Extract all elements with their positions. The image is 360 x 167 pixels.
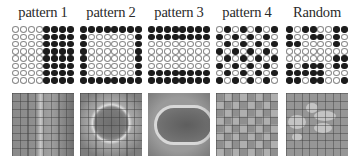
- grid-cell: [340, 77, 348, 84]
- grid-cell: [286, 41, 294, 48]
- empty-dot-icon: [156, 55, 163, 61]
- empty-dot-icon: [247, 55, 254, 61]
- empty-dot-icon: [216, 26, 223, 32]
- grid-cell: [96, 33, 104, 40]
- empty-dot-icon: [286, 48, 293, 54]
- empty-dot-icon: [20, 63, 27, 69]
- filled-dot-icon: [216, 63, 223, 69]
- filled-dot-icon: [43, 77, 50, 83]
- grid-cell: [156, 62, 164, 69]
- grid-cell: [171, 48, 179, 55]
- filled-dot-icon: [135, 34, 142, 40]
- grid-cell: [12, 55, 20, 62]
- filled-dot-icon: [43, 26, 50, 32]
- filled-dot-icon: [263, 77, 270, 83]
- response-map: [148, 93, 210, 156]
- grid-cell: [216, 33, 224, 40]
- grid-cell: [255, 41, 263, 48]
- empty-dot-icon: [148, 55, 155, 61]
- empty-dot-icon: [325, 34, 332, 40]
- empty-dot-icon: [224, 77, 231, 83]
- grid-lines: [80, 93, 142, 156]
- grid-cell: [66, 70, 74, 77]
- grid-cell: [286, 26, 294, 33]
- grid-cell: [302, 77, 310, 84]
- grid-cell: [156, 55, 164, 62]
- grid-cell: [224, 48, 232, 55]
- grid-cell: [179, 77, 187, 84]
- empty-dot-icon: [104, 34, 111, 40]
- grid-cell: [20, 41, 28, 48]
- empty-dot-icon: [148, 63, 155, 69]
- response-map: [12, 93, 74, 156]
- grid-cell: [247, 48, 255, 55]
- empty-dot-icon: [216, 41, 223, 47]
- grid-cell: [232, 26, 240, 33]
- empty-dot-icon: [20, 34, 27, 40]
- grid-cell: [20, 62, 28, 69]
- empty-dot-icon: [164, 41, 171, 47]
- filled-dot-icon: [148, 77, 155, 83]
- grid-cell: [80, 70, 88, 77]
- empty-dot-icon: [247, 26, 254, 32]
- filled-dot-icon: [203, 70, 210, 76]
- grid-cell: [96, 26, 104, 33]
- filled-dot-icon: [195, 77, 202, 83]
- filled-dot-icon: [80, 48, 87, 54]
- empty-dot-icon: [240, 48, 247, 54]
- empty-dot-icon: [96, 70, 103, 76]
- grid-cell: [148, 41, 156, 48]
- filled-dot-icon: [67, 48, 74, 54]
- filled-dot-icon: [271, 70, 278, 76]
- grid-cell: [96, 41, 104, 48]
- grid-cell: [195, 55, 203, 62]
- grid-cell: [134, 55, 142, 62]
- filled-dot-icon: [187, 34, 194, 40]
- empty-dot-icon: [119, 63, 126, 69]
- empty-dot-icon: [88, 41, 95, 47]
- grid-cell: [270, 55, 278, 62]
- empty-dot-icon: [302, 48, 309, 54]
- filled-dot-icon: [302, 70, 309, 76]
- filled-dot-icon: [51, 26, 58, 32]
- filled-dot-icon: [156, 77, 163, 83]
- grid-cell: [294, 41, 302, 48]
- grid-cell: [88, 33, 96, 40]
- empty-dot-icon: [302, 77, 309, 83]
- grid-cell: [202, 33, 210, 40]
- grid-cell: [325, 26, 333, 33]
- empty-dot-icon: [325, 55, 332, 61]
- filled-dot-icon: [333, 41, 340, 47]
- empty-dot-icon: [172, 55, 179, 61]
- grid-cell: [202, 77, 210, 84]
- grid-cell: [224, 41, 232, 48]
- grid-cell: [156, 70, 164, 77]
- grid-cell: [294, 77, 302, 84]
- empty-dot-icon: [341, 34, 348, 40]
- empty-dot-icon: [119, 70, 126, 76]
- filled-dot-icon: [341, 77, 348, 83]
- grid-cell: [103, 77, 111, 84]
- filled-dot-icon: [341, 55, 348, 61]
- grid-cell: [309, 77, 317, 84]
- grid-cell: [333, 70, 341, 77]
- grid-cell: [171, 70, 179, 77]
- grid-cell: [195, 70, 203, 77]
- filled-dot-icon: [59, 77, 66, 83]
- grid-cell: [302, 41, 310, 48]
- grid-cell: [232, 70, 240, 77]
- empty-dot-icon: [224, 63, 231, 69]
- grid-cell: [224, 77, 232, 84]
- grid-cell: [20, 48, 28, 55]
- empty-dot-icon: [111, 34, 118, 40]
- empty-dot-icon: [179, 63, 186, 69]
- empty-dot-icon: [164, 55, 171, 61]
- grid-cell: [164, 62, 172, 69]
- grid-cell: [111, 48, 119, 55]
- grid-cell: [35, 26, 43, 33]
- filled-dot-icon: [135, 55, 142, 61]
- grid-cell: [216, 77, 224, 84]
- grid-cell: [134, 33, 142, 40]
- empty-dot-icon: [36, 48, 43, 54]
- empty-dot-icon: [232, 41, 239, 47]
